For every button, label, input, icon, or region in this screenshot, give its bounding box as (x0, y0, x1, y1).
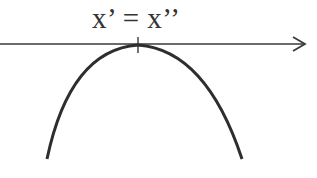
parabola-curve (47, 45, 242, 159)
diagram-canvas: x’ = x’’ (0, 0, 317, 178)
diagram-figure (0, 0, 317, 178)
